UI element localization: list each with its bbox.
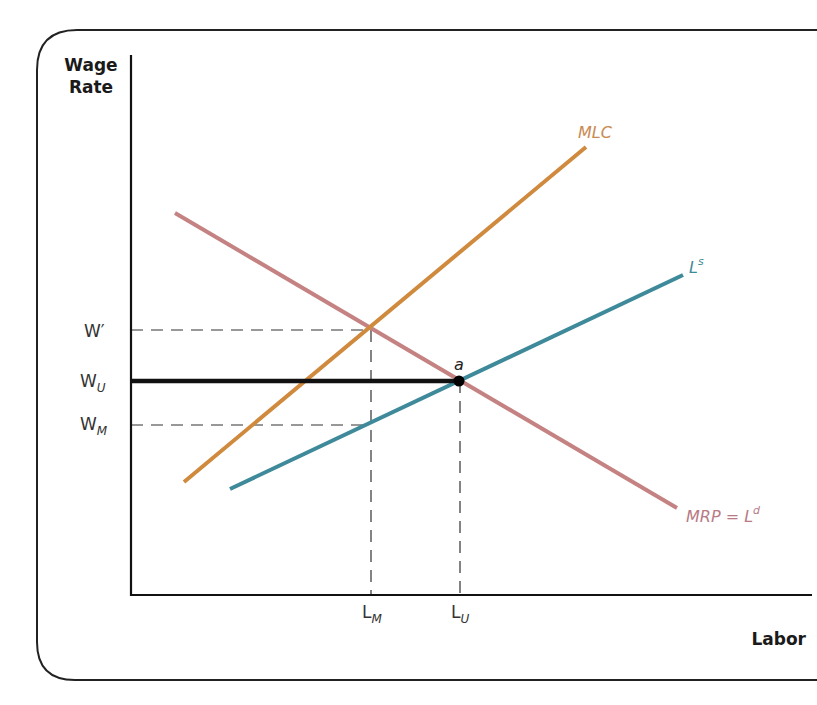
y-tick-w-m: WM <box>80 414 108 438</box>
guide-lines <box>131 330 460 595</box>
mrp-demand-label: MRP = Ld <box>686 504 761 526</box>
point-a-label: a <box>454 355 464 374</box>
x-tick-l-u: LU <box>451 602 469 626</box>
x-axis-title: Labor <box>751 629 806 649</box>
mlc-label: MLC <box>578 123 613 142</box>
chart-frame <box>37 30 817 680</box>
mrp-demand-curve <box>175 213 677 508</box>
y-tick-w-u: WU <box>80 371 106 395</box>
mlc-curve <box>184 147 586 482</box>
chart-canvas: Wage Rate Labor W′ WU WM LM LU MLC Ls MR… <box>0 0 817 705</box>
equilibrium-point <box>454 376 465 387</box>
y-tick-w-prime: W′ <box>84 321 105 341</box>
y-axis-title-line1: Wage <box>64 55 117 75</box>
y-axis-title-line2: Rate <box>69 77 113 97</box>
x-tick-l-m: LM <box>362 602 382 626</box>
labor-supply-label: Ls <box>689 255 704 277</box>
